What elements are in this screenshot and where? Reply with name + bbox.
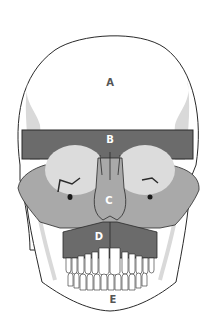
label-a: A: [106, 77, 114, 88]
left-foramen: [68, 194, 73, 200]
label-e: E: [110, 294, 117, 305]
skull-diagram: A B C D E: [0, 0, 215, 330]
label-d: D: [95, 231, 103, 242]
label-c: C: [105, 195, 112, 206]
right-foramen: [148, 195, 153, 200]
label-b: B: [106, 134, 114, 145]
